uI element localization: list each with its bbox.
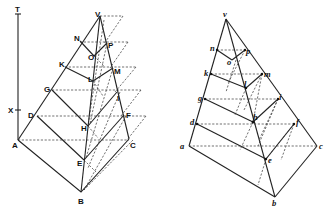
- d-dash-15: [84, 160, 96, 172]
- label-G: G: [44, 85, 50, 94]
- label-V: V: [95, 10, 101, 19]
- right-figure: v n p o k m l g i h d f a c e b: [180, 9, 323, 207]
- edge-b-v: [81, 16, 100, 192]
- label-b: b: [272, 198, 276, 207]
- label-v: v: [223, 9, 227, 19]
- label-E: E: [77, 159, 83, 168]
- d-dash-13: [93, 81, 103, 96]
- dot-e: [265, 158, 267, 160]
- i-dash-3: [244, 74, 262, 110]
- label-X: X: [8, 106, 14, 115]
- dot-g: [204, 98, 206, 100]
- label-B: B: [78, 197, 84, 206]
- i-dash-6: [258, 159, 266, 185]
- label-D: D: [28, 111, 34, 120]
- d-dash-1: [104, 16, 123, 44]
- label-I: I: [117, 94, 119, 103]
- i-dash-5: [281, 124, 294, 160]
- label-H: H: [81, 124, 87, 133]
- section-g-h: [52, 90, 88, 126]
- section-g-h-lower: [205, 99, 253, 122]
- d-dash-9: [88, 92, 120, 168]
- d-dash-4: [121, 90, 141, 116]
- i-dash-8: [235, 88, 246, 115]
- dot-m: [261, 73, 263, 75]
- label-F: F: [126, 111, 131, 120]
- edge-c-v-lower: [226, 19, 317, 146]
- section-k-l-lower: [211, 74, 246, 88]
- i-dash-4: [259, 99, 278, 140]
- label-P: P: [108, 41, 114, 50]
- section-e-f: [84, 115, 124, 160]
- label-n: n: [210, 43, 215, 53]
- label-e: e: [268, 155, 272, 165]
- label-c: c: [319, 141, 323, 151]
- label-N: N: [74, 34, 80, 43]
- label-A: A: [12, 141, 18, 150]
- edge-b-c-lower: [275, 146, 317, 197]
- label-O: O: [88, 53, 94, 62]
- label-M: M: [114, 67, 121, 76]
- label-K: K: [59, 60, 65, 69]
- label-p: p: [245, 46, 250, 56]
- i-dash-10: [258, 99, 278, 146]
- edge-a-v-lower: [189, 19, 226, 146]
- label-k: k: [204, 68, 209, 78]
- label-g: g: [197, 93, 203, 103]
- label-d: d: [190, 117, 195, 127]
- label-m: m: [264, 69, 271, 79]
- dot-n: [216, 49, 218, 51]
- label-T: T: [15, 5, 20, 14]
- dot-f: [293, 123, 295, 125]
- d-dash-14: [88, 126, 98, 138]
- label-L: L: [88, 75, 93, 84]
- base-edges: [18, 139, 129, 192]
- edge-c-v: [100, 16, 129, 139]
- section-d-e-lower: [197, 124, 266, 159]
- diagram-canvas: T X A V N P O K M L G I D F H E C B: [0, 0, 325, 207]
- left-figure: T X A V N P O K M L G I D F H E C B: [8, 5, 146, 206]
- section-o-p-lower: [232, 50, 245, 60]
- dot-k: [210, 73, 212, 75]
- label-o: o: [227, 57, 231, 67]
- label-h: h: [253, 112, 258, 122]
- label-a: a: [180, 141, 185, 151]
- dot-d: [196, 123, 198, 125]
- section-d-e: [37, 116, 84, 160]
- label-C: C: [130, 141, 136, 150]
